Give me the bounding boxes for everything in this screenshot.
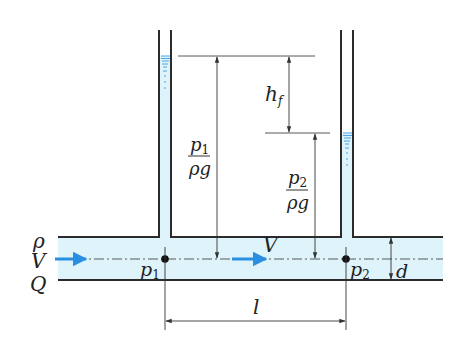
pipe-diagram: ρ V Q V p1 p2 d l hf p1 ρg p2 ρg bbox=[0, 0, 471, 356]
right-tube-water bbox=[342, 133, 353, 238]
head2-fraction: p2 ρg bbox=[286, 167, 309, 213]
flow-rate-label: Q bbox=[30, 272, 46, 296]
svg-text:ρg: ρg bbox=[188, 158, 211, 179]
headloss-label: hf bbox=[265, 82, 285, 108]
left-tube-water bbox=[160, 56, 171, 238]
head1-fraction: p1 ρg bbox=[188, 134, 211, 179]
svg-text:ρg: ρg bbox=[286, 192, 309, 213]
length-label: l bbox=[253, 295, 259, 319]
svg-text:p1: p1 bbox=[190, 134, 209, 157]
diameter-label: d bbox=[396, 260, 408, 282]
velocity-pipe-label: V bbox=[263, 233, 280, 257]
svg-text:p2: p2 bbox=[288, 167, 307, 190]
velocity-inlet-label: V bbox=[31, 249, 48, 273]
